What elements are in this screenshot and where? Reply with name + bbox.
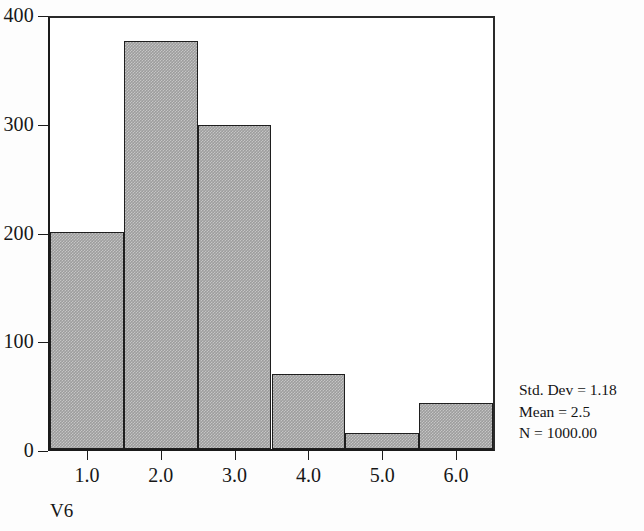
- mean-text: Mean = 2.5: [519, 401, 643, 423]
- y-axis-tick: [38, 16, 48, 17]
- y-axis-tick-label: 0: [0, 440, 34, 460]
- x-axis-tick: [308, 451, 309, 460]
- x-axis-tick: [456, 451, 457, 460]
- x-axis-tick: [235, 451, 236, 460]
- statistics-annotation: Std. Dev = 1.18 Mean = 2.5 N = 1000.00: [519, 379, 643, 444]
- bar-series: [50, 18, 493, 449]
- histogram-bar: [272, 374, 346, 449]
- x-axis-title: V6: [50, 500, 73, 522]
- x-axis-tick: [382, 451, 383, 460]
- x-axis-tick: [87, 451, 88, 460]
- histogram-bar: [124, 41, 198, 449]
- x-axis-tick-label: 3.0: [195, 464, 275, 486]
- histogram-bar: [198, 125, 272, 449]
- y-axis-tick: [38, 234, 48, 235]
- x-axis-tick-label: 4.0: [268, 464, 348, 486]
- histogram-bar: [50, 232, 124, 450]
- n-text: N = 1000.00: [519, 422, 643, 444]
- y-axis-tick: [38, 125, 48, 126]
- x-axis-tick-label: 1.0: [47, 464, 127, 486]
- y-axis-tick-label: 400: [0, 5, 34, 25]
- x-axis-tick-label: 2.0: [121, 464, 201, 486]
- y-axis-tick-label: 100: [0, 331, 34, 351]
- y-axis-tick: [38, 451, 48, 452]
- histogram-screenshot: 0100200300400 1.02.03.04.05.06.0 V6 Std.…: [0, 0, 644, 531]
- x-axis-tick-label: 5.0: [342, 464, 422, 486]
- histogram-bar: [419, 403, 493, 449]
- y-axis-tick-label: 200: [0, 223, 34, 243]
- histogram-bar: [345, 433, 419, 449]
- x-axis-tick-label: 6.0: [416, 464, 496, 486]
- std-dev-text: Std. Dev = 1.18: [519, 379, 643, 401]
- y-axis-tick-label: 300: [0, 114, 34, 134]
- y-axis-tick: [38, 342, 48, 343]
- x-axis-tick: [161, 451, 162, 460]
- plot-area: [48, 16, 495, 451]
